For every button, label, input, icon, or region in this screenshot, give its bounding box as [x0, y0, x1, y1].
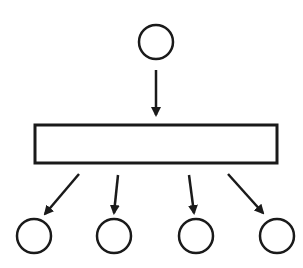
- output-circle-1: [17, 219, 51, 253]
- output-arrow-icon-4: [228, 174, 263, 213]
- output-nodes: [17, 219, 294, 253]
- diagram-canvas: [0, 0, 303, 268]
- output-arrow-icon-3: [189, 175, 194, 213]
- process-box: [35, 125, 277, 163]
- output-circle-3: [179, 219, 213, 253]
- output-arrows: [45, 174, 263, 214]
- output-circle-4: [260, 219, 294, 253]
- source-circle: [139, 25, 173, 59]
- output-arrow-icon-1: [45, 174, 79, 214]
- fan-out-diagram: [0, 0, 303, 268]
- process-rectangle: [35, 125, 277, 163]
- source-node: [139, 25, 173, 59]
- output-arrow-icon-2: [114, 175, 118, 213]
- output-circle-2: [97, 219, 131, 253]
